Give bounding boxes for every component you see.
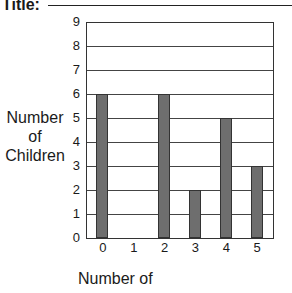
x-tick-label: 5 bbox=[247, 241, 267, 255]
bar-0 bbox=[96, 94, 108, 238]
y-tick-label: 3 bbox=[64, 159, 80, 173]
y-axis-label-line: of bbox=[4, 127, 66, 146]
gridline bbox=[87, 166, 273, 167]
y-tick-label: 0 bbox=[64, 231, 80, 245]
y-tick-label: 2 bbox=[64, 183, 80, 197]
gridline bbox=[87, 190, 273, 191]
y-tick-label: 4 bbox=[64, 135, 80, 149]
x-tick-label: 2 bbox=[155, 241, 175, 255]
gridline bbox=[87, 118, 273, 119]
y-tick-label: 1 bbox=[64, 207, 80, 221]
y-axis-label: Number of Children bbox=[4, 108, 66, 165]
y-tick-label: 5 bbox=[64, 111, 80, 125]
y-axis-label-line: Number bbox=[4, 108, 66, 127]
plot-area bbox=[86, 22, 274, 239]
gridline bbox=[87, 70, 273, 71]
y-axis-label-line: Children bbox=[4, 146, 66, 165]
gridline bbox=[87, 214, 273, 215]
bar-3 bbox=[189, 190, 201, 238]
x-axis-label: Number of bbox=[78, 269, 153, 289]
x-tick-label: 0 bbox=[93, 241, 113, 255]
y-tick-label: 8 bbox=[64, 39, 80, 53]
title-label: Title: bbox=[2, 0, 40, 14]
y-tick-label: 9 bbox=[64, 15, 80, 29]
bar-2 bbox=[158, 94, 170, 238]
bar-5 bbox=[251, 166, 263, 238]
y-tick-label: 7 bbox=[64, 63, 80, 77]
y-tick-label: 6 bbox=[64, 87, 80, 101]
x-tick-label: 3 bbox=[185, 241, 205, 255]
gridline bbox=[87, 142, 273, 143]
title-row: Title: bbox=[2, 0, 292, 14]
title-blank-line bbox=[48, 5, 292, 6]
gridline bbox=[87, 46, 273, 47]
x-tick-label: 4 bbox=[216, 241, 236, 255]
gridline bbox=[87, 94, 273, 95]
bar-4 bbox=[220, 118, 232, 238]
x-tick-label: 1 bbox=[124, 241, 144, 255]
